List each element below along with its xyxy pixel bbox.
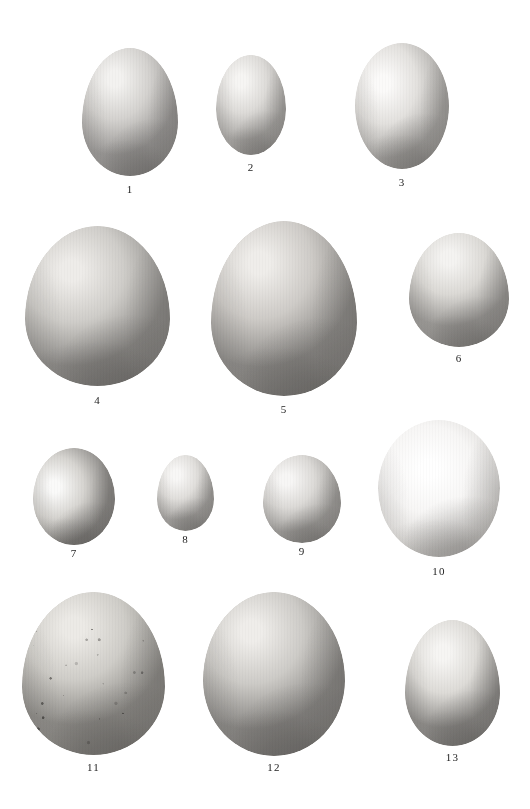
egg-specimen-3 bbox=[355, 43, 449, 169]
egg-specimen-11 bbox=[22, 592, 165, 755]
egg-figure-label-1: 1 bbox=[82, 184, 178, 195]
halftone-grain bbox=[82, 48, 178, 176]
egg-plate: 12345678910111213 bbox=[0, 0, 530, 809]
egg-figure-5 bbox=[211, 221, 357, 396]
egg-figure-label-8: 8 bbox=[157, 534, 214, 545]
egg-specimen-9 bbox=[263, 455, 341, 543]
halftone-grain bbox=[409, 233, 509, 347]
egg-figure-8 bbox=[157, 455, 214, 531]
egg-specimen-7 bbox=[33, 448, 115, 545]
egg-figure-label-11: 11 bbox=[22, 762, 165, 773]
egg-figure-label-9: 9 bbox=[263, 546, 341, 557]
egg-specimen-1 bbox=[82, 48, 178, 176]
egg-figure-11 bbox=[22, 592, 165, 755]
egg-specimen-4 bbox=[25, 226, 170, 386]
egg-figure-label-5: 5 bbox=[211, 404, 357, 415]
halftone-grain bbox=[405, 620, 500, 746]
halftone-grain bbox=[25, 226, 170, 386]
halftone-grain bbox=[355, 43, 449, 169]
egg-figure-2 bbox=[216, 55, 286, 155]
halftone-grain bbox=[378, 420, 500, 557]
egg-specimen-8 bbox=[157, 455, 214, 531]
egg-speckles bbox=[22, 592, 165, 755]
egg-specimen-5 bbox=[211, 221, 357, 396]
egg-specimen-13 bbox=[405, 620, 500, 746]
egg-figure-label-13: 13 bbox=[405, 752, 500, 763]
egg-figure-9 bbox=[263, 455, 341, 543]
egg-specimen-6 bbox=[409, 233, 509, 347]
halftone-grain bbox=[216, 55, 286, 155]
egg-figure-10 bbox=[378, 420, 500, 557]
egg-figure-12 bbox=[203, 592, 345, 756]
egg-figure-label-6: 6 bbox=[409, 353, 509, 364]
egg-figure-label-7: 7 bbox=[33, 548, 115, 559]
egg-figure-label-2: 2 bbox=[216, 162, 286, 173]
egg-specimen-10 bbox=[378, 420, 500, 557]
egg-figure-4 bbox=[25, 226, 170, 386]
egg-figure-label-4: 4 bbox=[25, 395, 170, 406]
egg-figure-1 bbox=[82, 48, 178, 176]
halftone-grain bbox=[33, 448, 115, 545]
egg-figure-6 bbox=[409, 233, 509, 347]
halftone-grain bbox=[203, 592, 345, 756]
egg-figure-3 bbox=[355, 43, 449, 169]
halftone-grain bbox=[211, 221, 357, 396]
egg-figure-13 bbox=[405, 620, 500, 746]
egg-figure-label-3: 3 bbox=[355, 177, 449, 188]
halftone-grain bbox=[157, 455, 214, 531]
egg-specimen-2 bbox=[216, 55, 286, 155]
egg-figure-label-12: 12 bbox=[203, 762, 345, 773]
egg-specimen-12 bbox=[203, 592, 345, 756]
egg-figure-7 bbox=[33, 448, 115, 545]
halftone-grain bbox=[263, 455, 341, 543]
egg-figure-label-10: 10 bbox=[378, 566, 500, 577]
